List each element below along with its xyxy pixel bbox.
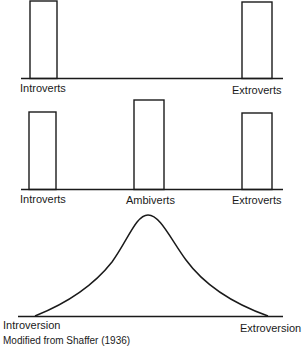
panel-dichotomy — [21, 1, 283, 79]
panel-continuum — [18, 215, 283, 317]
bar-ambiverts — [134, 100, 164, 190]
source-caption: Modified from Shaffer (1936) — [3, 335, 130, 347]
label-extroverts: Extroverts — [232, 194, 282, 206]
bar-extroverts — [242, 113, 272, 190]
bar-extroverts — [242, 2, 272, 79]
label-introverts: Introverts — [20, 193, 66, 205]
label-introverts: Introverts — [20, 82, 66, 94]
panel-trichotomy — [21, 100, 283, 190]
bar-introverts — [30, 1, 57, 79]
label-ambiverts: Ambiverts — [126, 194, 175, 206]
bell-curve — [35, 215, 268, 316]
label-introversion: Introversion — [3, 319, 60, 331]
label-extroversion: Extroversion — [240, 322, 301, 334]
label-extroverts: Extroverts — [232, 84, 282, 96]
bar-introverts — [29, 112, 56, 190]
